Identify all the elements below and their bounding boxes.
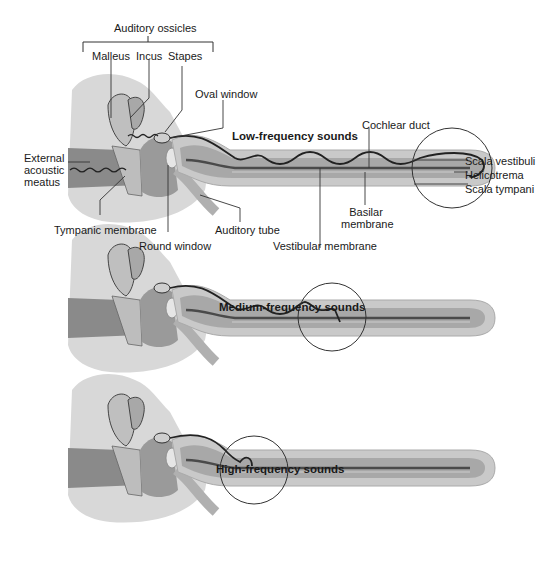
label-external-acoustic-meatus-3: meatus — [24, 176, 60, 188]
label-vestibular-membrane: Vestibular membrane — [273, 240, 377, 252]
label-tympanic-membrane: Tympanic membrane — [54, 224, 157, 236]
label-scala-tympani: Scala tympani — [465, 183, 534, 195]
label-external-acoustic-meatus-2: acoustic — [24, 164, 64, 176]
cochlea-diagram — [0, 0, 560, 568]
label-helicotrema: Helicotrema — [465, 169, 524, 181]
label-malleus: Malleus — [92, 50, 130, 62]
panel-title-medium-frequency: Medium-frequency sounds — [219, 301, 365, 313]
panel-high-frequency — [68, 374, 495, 523]
label-incus: Incus — [136, 50, 162, 62]
label-scala-vestibuli: Scala vestibuli — [465, 155, 535, 167]
label-stapes: Stapes — [168, 50, 202, 62]
label-round-window: Round window — [139, 240, 211, 252]
label-auditory-tube: Auditory tube — [215, 224, 280, 236]
panel-title-low-frequency: Low-frequency sounds — [232, 130, 358, 142]
label-external-acoustic-meatus-1: External — [24, 152, 64, 164]
label-basilar-membrane-2: membrane — [341, 218, 391, 230]
label-auditory-ossicles: Auditory ossicles — [114, 22, 197, 34]
label-cochlear-duct: Cochlear duct — [362, 119, 430, 131]
label-oval-window: Oval window — [195, 88, 257, 100]
label-basilar-membrane-1: Basilar — [343, 206, 389, 218]
panel-low-frequency — [68, 36, 495, 248]
panel-title-high-frequency: High-frequency sounds — [216, 463, 344, 475]
